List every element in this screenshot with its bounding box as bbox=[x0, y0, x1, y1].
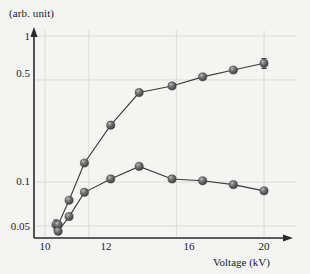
data-point-marker bbox=[65, 196, 73, 204]
data-point-marker bbox=[199, 73, 207, 81]
axis-lines bbox=[30, 27, 293, 242]
series-upper-curve bbox=[52, 59, 268, 230]
data-point-marker bbox=[135, 162, 143, 170]
data-point-marker bbox=[168, 175, 176, 183]
data-point-marker bbox=[135, 88, 143, 96]
data-series-layer bbox=[52, 59, 268, 236]
data-point-marker bbox=[229, 66, 237, 74]
data-point-marker bbox=[80, 159, 88, 167]
chart-figure: (arb. unit) 1 0.5 0.1 0.05 10 12 16 20 V… bbox=[0, 0, 310, 274]
data-point-marker bbox=[260, 59, 268, 67]
data-point-marker bbox=[199, 177, 207, 185]
data-point-marker bbox=[107, 121, 115, 129]
data-point-marker bbox=[65, 212, 73, 220]
data-point-marker bbox=[229, 181, 237, 189]
data-point-marker bbox=[107, 175, 115, 183]
data-point-marker bbox=[80, 188, 88, 196]
plot-canvas bbox=[0, 0, 310, 274]
data-point-marker bbox=[54, 227, 62, 235]
series-lower-curve bbox=[54, 162, 268, 235]
gridlines bbox=[34, 30, 296, 238]
data-point-marker bbox=[168, 82, 176, 90]
data-point-marker bbox=[260, 187, 268, 195]
